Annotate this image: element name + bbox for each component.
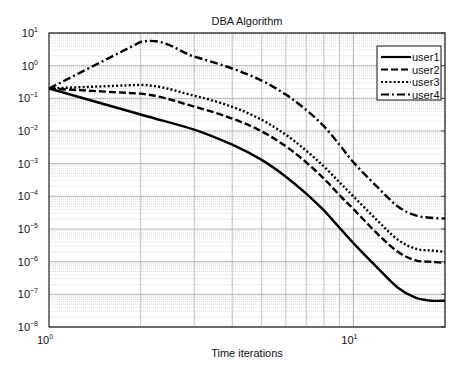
- x-tick-label: 101: [341, 333, 357, 346]
- legend-label-user3: user3: [412, 76, 440, 88]
- x-tick-label: 100: [37, 333, 53, 346]
- y-tick-label: 10−6: [18, 255, 38, 268]
- x-axis-label: Time iterations: [211, 347, 283, 359]
- y-tick-label: 10−3: [18, 157, 38, 170]
- x-axis-tick-labels: 100101: [37, 333, 358, 346]
- y-tick-label: 100: [22, 59, 38, 72]
- y-tick-label: 10−4: [18, 189, 38, 202]
- legend-label-user2: user2: [412, 64, 440, 76]
- legend: user1user2user3user4: [377, 46, 441, 101]
- y-tick-label: 10−8: [18, 320, 38, 333]
- chart-figure: DBA Algorithm 10110010−110−210−310−410−5…: [0, 0, 466, 376]
- y-tick-label: 10−7: [18, 287, 38, 300]
- y-tick-label: 101: [22, 26, 38, 39]
- y-tick-label: 10−1: [18, 91, 38, 104]
- y-tick-label: 10−2: [18, 124, 38, 137]
- legend-label-user1: user1: [412, 51, 440, 63]
- legend-label-user4: user4: [412, 89, 440, 101]
- chart-title: DBA Algorithm: [212, 15, 283, 27]
- y-tick-label: 10−5: [18, 222, 38, 235]
